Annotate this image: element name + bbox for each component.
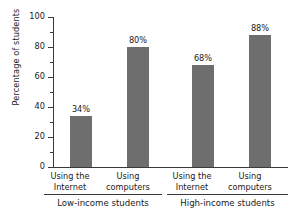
bar-high-income-computers: 88% <box>249 35 271 167</box>
x-label-line2: Internet <box>164 182 220 193</box>
y-tick-label-80: 80 <box>35 41 45 51</box>
plot-area: 100 80 60 40 20 0 34% 80% 68% <box>53 17 288 167</box>
x-label-line2: computers <box>100 182 156 193</box>
x-label-low-income-internet: Using the Internet <box>42 171 98 192</box>
bar-high-income-internet: 68% <box>192 65 214 167</box>
y-tick-20: 20 <box>48 137 53 138</box>
y-tick-label-100: 100 <box>29 11 45 21</box>
y-axis-title: Percentage of students <box>11 0 21 127</box>
x-label-low-income-computers: Using computers <box>100 171 156 192</box>
bar-value-high-income-internet: 68% <box>194 53 212 63</box>
y-tick-label-20: 20 <box>35 131 45 141</box>
y-minor-tick-70 <box>50 62 53 63</box>
bar-low-income-computers: 80% <box>127 47 149 167</box>
x-label-line1: Using <box>222 171 278 182</box>
y-axis-line <box>53 17 54 167</box>
y-tick-40: 40 <box>48 107 53 108</box>
y-tick-0: 0 <box>48 167 53 168</box>
y-tick-60: 60 <box>48 77 53 78</box>
y-tick-label-40: 40 <box>35 101 45 111</box>
x-label-line1: Using the <box>42 171 98 182</box>
y-tick-80: 80 <box>48 47 53 48</box>
bar-value-high-income-computers: 88% <box>251 23 269 33</box>
x-label-line2: computers <box>222 182 278 193</box>
x-label-line1: Using the <box>164 171 220 182</box>
y-minor-tick-90 <box>50 32 53 33</box>
x-label-line1: Using <box>100 171 156 182</box>
y-tick-label-0: 0 <box>40 161 45 171</box>
bar-chart: Percentage of students 100 80 60 40 20 0 <box>0 0 295 222</box>
bar-value-low-income-internet: 34% <box>72 104 90 114</box>
x-label-line2: Internet <box>42 182 98 193</box>
group-rule-low-income <box>44 194 162 195</box>
x-label-high-income-computers: Using computers <box>222 171 278 192</box>
x-label-high-income-internet: Using the Internet <box>164 171 220 192</box>
y-tick-100: 100 <box>48 17 53 18</box>
bar-low-income-internet: 34% <box>70 116 92 167</box>
y-minor-tick-30 <box>50 122 53 123</box>
x-axis-line <box>53 167 288 168</box>
y-minor-tick-10 <box>50 152 53 153</box>
group-rule-high-income <box>167 194 288 195</box>
group-label-high-income: High-income students <box>167 198 288 208</box>
bar-value-low-income-computers: 80% <box>129 35 147 45</box>
group-label-low-income: Low-income students <box>44 198 162 208</box>
y-minor-tick-50 <box>50 92 53 93</box>
y-tick-label-60: 60 <box>35 71 45 81</box>
